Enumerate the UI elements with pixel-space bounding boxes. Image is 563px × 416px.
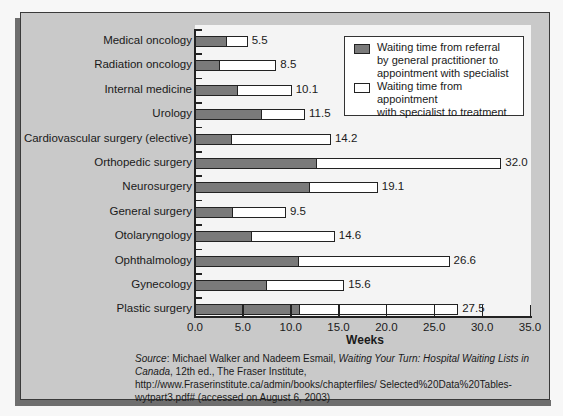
bar-segment-referral bbox=[196, 257, 299, 266]
bar-segment-referral bbox=[196, 232, 252, 241]
legend-label-referral: Waiting time from referral by general pr… bbox=[377, 41, 508, 80]
bar-value-label: 32.0 bbox=[505, 156, 527, 168]
category-label: Cardiovascular surgery (elective) bbox=[24, 132, 192, 144]
source-rest: , 12th ed., The Fraser Institute, http:/… bbox=[135, 366, 512, 403]
x-tick-label: 35.0 bbox=[510, 321, 550, 333]
bar-segment-referral bbox=[196, 37, 227, 46]
bar-value-label: 15.6 bbox=[348, 278, 370, 290]
x-tick-label: 15.0 bbox=[319, 321, 359, 333]
category-label: Internal medicine bbox=[104, 83, 192, 95]
y-axis-tick bbox=[195, 29, 202, 31]
x-axis-tick bbox=[434, 305, 436, 317]
bar-total bbox=[195, 60, 276, 71]
bar-value-label: 11.5 bbox=[309, 107, 331, 119]
category-label: Urology bbox=[152, 107, 192, 119]
legend-label-treatment: Waiting time from appointment with speci… bbox=[377, 80, 523, 119]
x-tick-label: 5.0 bbox=[223, 321, 263, 333]
bar-value-label: 10.1 bbox=[296, 83, 318, 95]
bar-segment-referral bbox=[196, 86, 238, 95]
bar-value-label: 14.6 bbox=[339, 229, 361, 241]
category-label: Orthopedic surgery bbox=[94, 156, 192, 168]
bar-total bbox=[195, 256, 450, 267]
bar-total bbox=[195, 109, 305, 120]
x-axis-tick bbox=[482, 305, 484, 317]
y-axis-tick bbox=[195, 127, 202, 129]
bar-total bbox=[195, 182, 378, 193]
bar-segment-referral bbox=[196, 61, 220, 70]
bar-segment-referral bbox=[196, 159, 317, 168]
legend: Waiting time from referral by general pr… bbox=[344, 36, 524, 116]
legend-swatch-treatment bbox=[354, 83, 370, 93]
x-axis-tick bbox=[338, 305, 340, 317]
bar-segment-referral bbox=[196, 135, 232, 144]
bar-segment-referral bbox=[196, 305, 300, 314]
bar-total bbox=[195, 280, 344, 291]
bar-total bbox=[195, 134, 331, 145]
x-axis-tick bbox=[242, 305, 244, 317]
category-label: General surgery bbox=[110, 205, 192, 217]
y-axis-tick bbox=[195, 151, 202, 153]
x-axis-tick bbox=[386, 305, 388, 317]
bar-value-label: 9.5 bbox=[290, 205, 306, 217]
y-axis-tick bbox=[195, 175, 202, 177]
y-axis-tick bbox=[195, 249, 202, 251]
bar-total bbox=[195, 207, 286, 218]
category-label: Neurosurgery bbox=[122, 180, 192, 192]
category-label: Otolaryngology bbox=[115, 229, 192, 241]
y-axis-tick bbox=[195, 102, 202, 104]
x-tick-label: 0.0 bbox=[175, 321, 215, 333]
source-label: Source bbox=[135, 353, 167, 364]
bar-value-label: 8.5 bbox=[280, 58, 296, 70]
y-axis-tick bbox=[195, 297, 202, 299]
x-axis-tick bbox=[290, 305, 292, 317]
source-note: Source: Michael Walker and Nadeem Esmail… bbox=[135, 352, 545, 404]
category-label: Ophthalmology bbox=[115, 254, 192, 266]
bar-segment-referral bbox=[196, 208, 233, 217]
bar-value-label: 14.2 bbox=[335, 132, 357, 144]
y-axis-tick bbox=[195, 200, 202, 202]
category-label: Radiation oncology bbox=[94, 58, 192, 70]
x-axis-tick bbox=[530, 305, 532, 317]
bar-total bbox=[195, 231, 335, 242]
legend-swatch-referral bbox=[354, 44, 370, 54]
bar-total bbox=[195, 158, 501, 169]
bar-segment-referral bbox=[196, 281, 267, 290]
x-axis-title: Weeks bbox=[335, 333, 395, 347]
bar-segment-referral bbox=[196, 110, 262, 119]
y-axis-tick bbox=[195, 53, 202, 55]
category-label: Medical oncology bbox=[103, 34, 192, 46]
x-tick-label: 30.0 bbox=[462, 321, 502, 333]
y-axis-tick bbox=[195, 273, 202, 275]
y-axis bbox=[194, 29, 196, 318]
bar-value-label: 5.5 bbox=[252, 34, 268, 46]
bar-total bbox=[195, 36, 248, 47]
category-label: Gynecology bbox=[131, 278, 192, 290]
bar-value-label: 19.1 bbox=[382, 180, 404, 192]
x-tick-label: 10.0 bbox=[271, 321, 311, 333]
y-axis-tick bbox=[195, 224, 202, 226]
bar-total bbox=[195, 85, 292, 96]
category-label: Plastic surgery bbox=[117, 302, 192, 314]
x-tick-label: 20.0 bbox=[366, 321, 406, 333]
bar-segment-referral bbox=[196, 183, 310, 192]
source-authors: : Michael Walker and Nadeem Esmail, bbox=[167, 353, 339, 364]
bar-value-label: 26.6 bbox=[454, 254, 476, 266]
x-tick-label: 25.0 bbox=[414, 321, 454, 333]
y-axis-tick bbox=[195, 78, 202, 80]
bar-total bbox=[195, 304, 458, 315]
